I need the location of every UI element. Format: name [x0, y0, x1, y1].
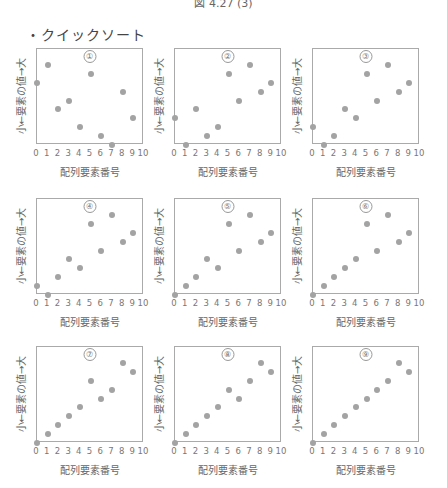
data-point — [77, 124, 83, 130]
x-tick-label: 2 — [55, 298, 60, 308]
x-tick-label: 6 — [97, 148, 102, 158]
scatter-panel-7: 小←要素の値→大⑦012345678910配列要素番号 — [0, 340, 145, 480]
y-axis-label-text: 小←要素の値→大 — [289, 58, 304, 135]
data-point — [396, 89, 402, 95]
x-tick-label: 0 — [309, 148, 314, 158]
x-axis-ticks: 012345678910 — [36, 298, 143, 310]
x-tick-label: 1 — [320, 148, 325, 158]
x-axis-ticks: 012345678910 — [174, 298, 281, 310]
x-tick-label: 1 — [44, 148, 49, 158]
x-tick-label: 0 — [171, 148, 176, 158]
x-tick-label: 8 — [119, 446, 124, 456]
plot-area: ⑨ — [312, 346, 419, 442]
data-point — [321, 431, 327, 437]
x-axis-ticks: 012345678910 — [312, 446, 419, 458]
x-tick-label: 4 — [214, 446, 219, 456]
x-tick-label: 6 — [235, 148, 240, 158]
x-axis-label: 配列要素番号 — [174, 462, 281, 477]
x-tick-label: 2 — [331, 298, 336, 308]
data-point — [88, 71, 94, 77]
data-point — [310, 124, 316, 130]
x-tick-label: 9 — [406, 298, 411, 308]
step-number-badge: ⑧ — [221, 348, 234, 361]
x-axis-ticks: 012345678910 — [36, 446, 143, 458]
x-tick-label: 3 — [341, 446, 346, 456]
x-tick-label: 6 — [373, 298, 378, 308]
data-point — [88, 378, 94, 384]
x-tick-label: 7 — [246, 148, 251, 158]
y-axis-label-text: 小←要素の値→大 — [289, 208, 304, 285]
x-tick-label: 1 — [182, 298, 187, 308]
x-tick-label: 5 — [363, 298, 368, 308]
data-point — [98, 396, 104, 402]
x-tick-label: 6 — [97, 446, 102, 456]
x-axis-ticks: 012345678910 — [312, 298, 419, 310]
plot-area: ④ — [36, 198, 143, 294]
data-point — [364, 396, 370, 402]
scatter-panel-1: 小←要素の値→大①012345678910配列要素番号 — [0, 42, 145, 182]
data-point — [226, 221, 232, 227]
data-point — [396, 239, 402, 245]
scatter-panel-5: 小←要素の値→大⑤012345678910配列要素番号 — [138, 192, 283, 332]
scatter-panel-9: 小←要素の値→大⑨012345678910配列要素番号 — [276, 340, 421, 480]
x-axis-label: 配列要素番号 — [312, 164, 419, 179]
section-title: ・クイックソート — [26, 24, 146, 44]
data-point — [385, 62, 391, 68]
x-tick-label: 1 — [182, 446, 187, 456]
data-point — [247, 62, 253, 68]
data-point — [130, 115, 136, 121]
y-axis-label-text: 小←要素の値→大 — [13, 208, 28, 285]
x-tick-label: 4 — [76, 446, 81, 456]
data-point — [268, 230, 274, 236]
data-point — [45, 431, 51, 437]
y-axis-label-text: 小←要素の値→大 — [151, 356, 166, 433]
data-point — [88, 221, 94, 227]
data-point — [109, 387, 115, 393]
data-point — [120, 239, 126, 245]
x-tick-label: 6 — [97, 298, 102, 308]
x-tick-label: 0 — [309, 446, 314, 456]
data-point — [77, 404, 83, 410]
x-tick-label: 9 — [268, 148, 273, 158]
x-tick-label: 0 — [309, 298, 314, 308]
plot-area: ② — [174, 48, 281, 144]
step-number-badge: ③ — [359, 50, 372, 63]
x-tick-label: 0 — [171, 298, 176, 308]
data-point — [130, 230, 136, 236]
x-tick-label: 5 — [363, 446, 368, 456]
x-tick-label: 1 — [44, 446, 49, 456]
data-point — [193, 106, 199, 112]
data-point — [226, 71, 232, 77]
x-tick-label: 3 — [203, 298, 208, 308]
x-tick-label: 2 — [55, 446, 60, 456]
y-axis-label-text: 小←要素の値→大 — [13, 356, 28, 433]
data-point — [258, 360, 264, 366]
x-tick-label: 6 — [373, 446, 378, 456]
step-number-badge: ④ — [83, 200, 96, 213]
x-axis-label: 配列要素番号 — [36, 164, 143, 179]
x-tick-label: 8 — [257, 298, 262, 308]
step-number-badge: ② — [221, 50, 234, 63]
data-point — [55, 422, 61, 428]
data-point — [236, 248, 242, 254]
data-point — [258, 89, 264, 95]
x-tick-label: 8 — [257, 148, 262, 158]
scatter-panel-3: 小←要素の値→大③012345678910配列要素番号 — [276, 42, 421, 182]
x-axis-label: 配列要素番号 — [36, 314, 143, 329]
data-point — [55, 274, 61, 280]
data-point — [406, 230, 412, 236]
x-axis-label: 配列要素番号 — [174, 164, 281, 179]
x-tick-label: 1 — [320, 446, 325, 456]
x-tick-label: 5 — [87, 148, 92, 158]
x-tick-label: 9 — [130, 446, 135, 456]
x-tick-label: 3 — [203, 446, 208, 456]
x-tick-label: 0 — [33, 148, 38, 158]
data-point — [193, 274, 199, 280]
x-tick-label: 1 — [44, 298, 49, 308]
data-point — [204, 133, 210, 139]
y-axis-label-text: 小←要素の値→大 — [13, 58, 28, 135]
plot-area: ⑧ — [174, 346, 281, 442]
x-tick-label: 1 — [182, 148, 187, 158]
data-point — [353, 404, 359, 410]
plot-area: ① — [36, 48, 143, 144]
